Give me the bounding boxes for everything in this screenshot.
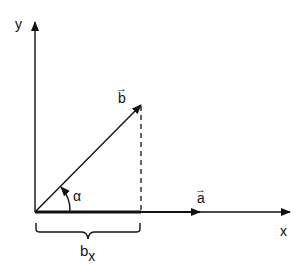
vector-b — [35, 105, 141, 212]
x-axis-label: x — [280, 223, 287, 239]
projection-label-sub: x — [88, 248, 95, 264]
projection-label: bx — [80, 242, 95, 264]
vector-b-label: b — [118, 90, 126, 106]
y-axis-label: y — [15, 16, 22, 32]
vector-projection-diagram: y x → a → b α bx — [0, 0, 303, 277]
angle-label: α — [73, 188, 81, 204]
vector-a-label: a — [197, 190, 205, 206]
projection-brace — [36, 223, 140, 239]
angle-arc — [61, 187, 70, 212]
projection-label-main: b — [80, 242, 88, 259]
